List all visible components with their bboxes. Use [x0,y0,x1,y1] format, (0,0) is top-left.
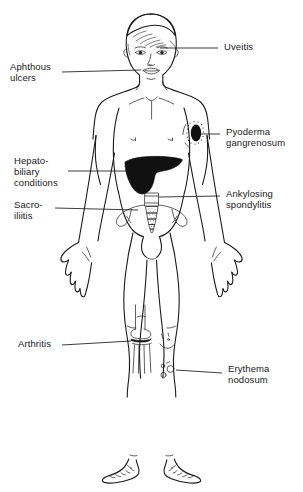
label-aphthous-ulcers: Aphthous ulcers [10,61,51,83]
label-uveitis: Uveitis [224,41,253,52]
anatomy-figure: .ol{fill:none;stroke:#1a1a1a;stroke-widt… [0,0,303,492]
label-arthritis: Arthritis [18,338,51,349]
label-erythema-nodosum: Erythema nodosum [228,363,269,385]
label-ankylosing-spondylitis: Ankylosing spondylitis [226,188,273,210]
label-pyoderma-gangrenosum: Pyoderma gangrenosum [226,126,285,148]
label-hepatobiliary-conditions: Hepato- biliary conditions [14,155,58,188]
label-sacroiliitis: Sacro- iliitis [14,199,43,221]
